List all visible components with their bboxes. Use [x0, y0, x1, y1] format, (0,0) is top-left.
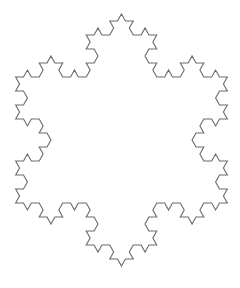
koch-snowflake-diagram	[0, 0, 240, 288]
background	[0, 0, 240, 288]
